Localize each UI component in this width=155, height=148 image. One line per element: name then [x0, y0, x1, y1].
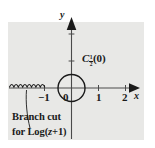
y-axis-label: y: [60, 10, 64, 20]
branch-cut-caption-line2: for Log(z+1): [12, 127, 66, 138]
x-tick-label-minus1: −1: [38, 92, 50, 103]
x-tick-label-1: 1: [96, 92, 102, 103]
contour-label: C12(0): [82, 53, 106, 67]
x-axis-label: x: [134, 91, 139, 101]
contour-label-argument: (0): [93, 52, 106, 64]
contour-label-base: C: [82, 52, 89, 64]
x-tick-label-2: 2: [122, 92, 128, 103]
branch-cut-caption-line1: Branch cut: [12, 112, 61, 123]
caption-prefix: for Log(: [12, 126, 48, 137]
complex-plane-figure: −1 0 1 2 x y C12(0) Branch cut for Log(z…: [0, 0, 155, 148]
caption-suffix: +1): [52, 126, 66, 137]
x-tick-label-0: 0: [63, 92, 69, 103]
